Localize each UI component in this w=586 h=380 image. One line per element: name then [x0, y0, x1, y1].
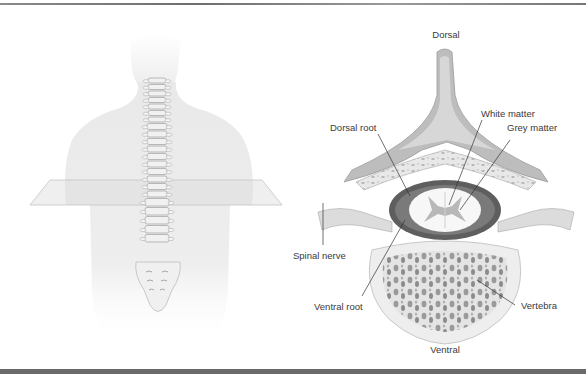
transverse-process: [140, 201, 146, 204]
transverse-process: [142, 156, 148, 159]
transverse-process: [165, 86, 171, 89]
left-spinal-nerve: [318, 209, 392, 233]
transverse-process: [140, 210, 146, 213]
transverse-process: [165, 93, 171, 96]
vertebra-segment: [147, 184, 167, 190]
vertebra-segment: [148, 98, 166, 103]
label-spinal-nerve: Spinal nerve: [293, 250, 346, 261]
transverse-process: [143, 86, 149, 89]
transverse-process: [165, 112, 171, 115]
vertebra-segment: [147, 124, 167, 130]
vertebra-segment: [147, 139, 167, 145]
transverse-process: [165, 99, 171, 102]
transverse-process: [142, 133, 148, 136]
transverse-process: [142, 126, 148, 129]
vertebra-segment: [145, 235, 169, 243]
label-vertebra: Vertebra: [521, 300, 558, 311]
transverse-process: [140, 219, 146, 222]
label-white-matter: White matter: [481, 108, 535, 119]
vertebra-segment: [147, 161, 167, 167]
label-ventral-root: Ventral root: [314, 301, 363, 312]
transverse-process: [166, 178, 172, 181]
vertebra-segment: [145, 199, 169, 207]
vertebra-segment: [148, 78, 166, 83]
vertebra-segment: [147, 154, 167, 160]
transverse-process: [166, 186, 172, 189]
transverse-process: [142, 163, 148, 166]
transverse-process: [168, 219, 174, 222]
bottom-rule: [0, 369, 586, 374]
transverse-process: [143, 119, 149, 122]
vertebra-segment: [145, 208, 169, 216]
transverse-process: [166, 171, 172, 174]
vertebra-segment: [147, 176, 167, 182]
transverse-process: [143, 99, 149, 102]
transverse-process: [142, 148, 148, 151]
vertebra-segment: [147, 191, 167, 197]
transverse-process: [165, 106, 171, 109]
transverse-process: [142, 171, 148, 174]
transverse-process: [143, 80, 149, 83]
transverse-process: [166, 163, 172, 166]
vertebra-segment: [147, 131, 167, 137]
transverse-process: [140, 228, 146, 231]
vertebra-segment: [147, 169, 167, 175]
transverse-process: [168, 228, 174, 231]
transverse-process: [143, 93, 149, 96]
transverse-process: [143, 106, 149, 109]
transverse-process: [168, 210, 174, 213]
transverse-process: [166, 193, 172, 196]
transverse-process: [142, 141, 148, 144]
vertebra-segment: [148, 91, 166, 96]
transverse-process: [165, 80, 171, 83]
transverse-process: [142, 186, 148, 189]
vertebra-segment: [148, 111, 166, 116]
label-dorsal: Dorsal: [432, 29, 459, 40]
transverse-process: [166, 156, 172, 159]
transverse-process: [166, 148, 172, 151]
transverse-process: [142, 193, 148, 196]
label-grey-matter: Grey matter: [507, 122, 557, 133]
vertebra-segment: [145, 226, 169, 234]
vertebra-segment: [148, 85, 166, 90]
label-dorsal-root: Dorsal root: [330, 122, 377, 133]
transverse-process: [168, 237, 174, 240]
transverse-process: [142, 178, 148, 181]
vertebra-segment: [148, 104, 166, 109]
vertebra-segment: [147, 146, 167, 152]
transverse-process: [140, 237, 146, 240]
right-spinal-nerve: [498, 209, 574, 233]
figure-canvas: Dorsal White matter Dorsal root Grey mat…: [0, 0, 586, 380]
transverse-process: [143, 112, 149, 115]
transverse-process: [165, 119, 171, 122]
transverse-process: [168, 201, 174, 204]
label-ventral: Ventral: [430, 344, 460, 355]
back-illustration: [30, 35, 282, 345]
vertebra-segment: [148, 117, 166, 122]
transverse-process: [166, 126, 172, 129]
transverse-process: [166, 133, 172, 136]
vertebra-segment: [145, 217, 169, 225]
transverse-process: [166, 141, 172, 144]
